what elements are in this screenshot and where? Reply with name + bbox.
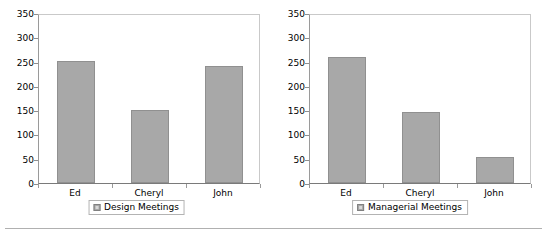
chart-page: 050100150200250300350 EdCherylJohn Desig… — [0, 0, 547, 236]
y-tick-mark — [34, 160, 38, 161]
y-tick-mark — [305, 14, 309, 15]
x-tick-mark — [260, 184, 261, 188]
y-tick-mark — [305, 111, 309, 112]
y-tick-label: 300 — [288, 34, 305, 43]
y-tick-mark — [305, 87, 309, 88]
bar-slot — [131, 15, 169, 183]
bar — [328, 57, 366, 183]
y-tick-mark — [305, 135, 309, 136]
y-tick-mark — [34, 87, 38, 88]
y-tick-label: 350 — [17, 10, 34, 19]
y-tick-label: 200 — [17, 82, 34, 91]
bar — [131, 110, 169, 183]
y-tick-label: 200 — [288, 82, 305, 91]
y-tick-label: 100 — [288, 131, 305, 140]
y-tick-mark — [34, 63, 38, 64]
bottom-divider — [5, 228, 542, 229]
charts-row: 050100150200250300350 EdCherylJohn Desig… — [0, 0, 547, 220]
x-tick-label: John — [213, 188, 233, 198]
x-tick-label: John — [484, 188, 504, 198]
plot-wrapper-left: 050100150200250300350 EdCherylJohn — [38, 14, 260, 184]
y-tick-label: 150 — [17, 107, 34, 116]
bar-slot — [476, 15, 514, 183]
plot-wrapper-right: 050100150200250300350 EdCherylJohn — [309, 14, 531, 184]
chart-managerial-meetings: 050100150200250300350 EdCherylJohn Manag… — [273, 0, 547, 220]
bar-slot — [57, 15, 95, 183]
legend-label: Design Meetings — [104, 202, 179, 212]
y-axis-right: 050100150200250300350 — [273, 14, 305, 184]
chart-design-meetings: 050100150200250300350 EdCherylJohn Desig… — [0, 0, 273, 220]
x-tick-label: Cheryl — [134, 188, 163, 198]
y-tick-label: 300 — [17, 34, 34, 43]
y-tick-mark — [305, 38, 309, 39]
square-swatch-icon — [93, 204, 100, 211]
bar — [57, 61, 95, 183]
bar-slot — [402, 15, 440, 183]
bar — [205, 66, 243, 183]
x-tick-label: Ed — [340, 188, 351, 198]
y-tick-mark — [34, 135, 38, 136]
bar-slot — [328, 15, 366, 183]
square-swatch-icon — [357, 204, 364, 211]
bar — [402, 112, 440, 183]
legend-label: Managerial Meetings — [368, 202, 462, 212]
x-tick-label: Ed — [69, 188, 80, 198]
y-tick-label: 150 — [288, 107, 305, 116]
bar-slot — [205, 15, 243, 183]
y-tick-label: 100 — [17, 131, 34, 140]
y-tick-mark — [34, 14, 38, 15]
y-tick-label: 50 — [23, 155, 34, 164]
y-tick-mark — [305, 63, 309, 64]
bars-left — [39, 15, 259, 183]
legend-right: Managerial Meetings — [352, 200, 468, 215]
legend-left: Design Meetings — [88, 200, 185, 215]
y-tick-label: 50 — [294, 155, 305, 164]
y-tick-label: 350 — [288, 10, 305, 19]
y-tick-label: 250 — [17, 58, 34, 67]
y-tick-mark — [305, 160, 309, 161]
x-tick-mark — [531, 184, 532, 188]
y-tick-label: 250 — [288, 58, 305, 67]
y-axis-left: 050100150200250300350 — [2, 14, 34, 184]
bar — [476, 157, 514, 183]
bars-right — [310, 15, 530, 183]
x-tick-label: Cheryl — [405, 188, 434, 198]
y-tick-mark — [34, 38, 38, 39]
y-tick-mark — [34, 111, 38, 112]
